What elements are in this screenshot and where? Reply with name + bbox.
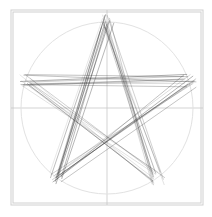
star-line	[103, 22, 156, 174]
star-line	[29, 86, 152, 179]
star-lines	[20, 14, 197, 185]
star-line	[106, 27, 154, 177]
star-line	[57, 22, 105, 178]
star-line	[23, 79, 185, 86]
star-line	[53, 74, 190, 176]
star-line	[26, 75, 153, 171]
star-line	[107, 15, 163, 180]
star-line	[50, 14, 105, 178]
star-line	[109, 18, 153, 185]
star-line	[56, 27, 101, 178]
diagram-canvas	[0, 0, 212, 217]
star-line	[50, 18, 103, 172]
star-line	[105, 19, 152, 184]
